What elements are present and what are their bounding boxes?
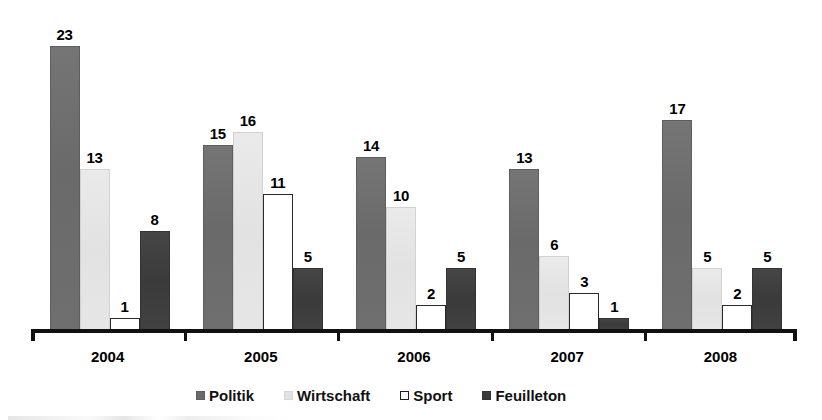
x-axis-label-2005: 2005 bbox=[201, 348, 321, 365]
x-axis-right-cap bbox=[793, 333, 797, 341]
bar-rect[interactable] bbox=[386, 207, 416, 331]
bar-value-label: 23 bbox=[50, 26, 80, 43]
bar-politik-2008[interactable]: 17 bbox=[662, 10, 692, 330]
legend-label: Politik bbox=[209, 387, 254, 404]
bar-feuilleton-2004[interactable]: 8 bbox=[140, 10, 170, 330]
bar-rect[interactable] bbox=[416, 305, 446, 330]
bar-politik-2006[interactable]: 14 bbox=[356, 10, 386, 330]
bar-row: 17525 bbox=[662, 10, 782, 330]
bar-sport-2004[interactable]: 1 bbox=[110, 10, 140, 330]
bar-wirtschaft-2008[interactable]: 5 bbox=[692, 10, 722, 330]
bar-value-label: 2 bbox=[722, 285, 752, 302]
bar-wirtschaft-2006[interactable]: 10 bbox=[386, 10, 416, 330]
bar-value-label: 6 bbox=[539, 236, 569, 253]
bar-value-label: 10 bbox=[386, 187, 416, 204]
legend-label: Sport bbox=[413, 387, 452, 404]
x-axis-tick bbox=[184, 333, 187, 341]
bar-value-label: 13 bbox=[509, 149, 539, 166]
bar-rect[interactable] bbox=[752, 268, 782, 330]
bar-rect[interactable] bbox=[662, 120, 692, 330]
bar-row: 231318 bbox=[50, 10, 170, 330]
legend-swatch-icon bbox=[196, 391, 205, 400]
plot-area: 23131815161151410251363117525 bbox=[31, 10, 797, 330]
bar-sport-2007[interactable]: 3 bbox=[569, 10, 599, 330]
x-axis-label-2008: 2008 bbox=[660, 348, 780, 365]
bar-rect[interactable] bbox=[509, 169, 539, 330]
bar-wirtschaft-2005[interactable]: 16 bbox=[233, 10, 263, 330]
bar-rect[interactable] bbox=[203, 145, 233, 330]
legend-label: Feuilleton bbox=[495, 387, 566, 404]
legend-label: Wirtschaft bbox=[297, 387, 370, 404]
bar-value-label: 13 bbox=[80, 149, 110, 166]
bar-row: 13631 bbox=[509, 10, 629, 330]
x-axis-tick bbox=[337, 333, 340, 341]
bar-politik-2004[interactable]: 23 bbox=[50, 10, 80, 330]
bar-politik-2005[interactable]: 15 bbox=[203, 10, 233, 330]
bar-rect[interactable] bbox=[293, 268, 323, 330]
bar-value-label: 8 bbox=[140, 211, 170, 228]
bar-chart: 23131815161151410251363117525 2004200520… bbox=[0, 0, 822, 420]
bar-rect[interactable] bbox=[50, 46, 80, 330]
bar-value-label: 16 bbox=[233, 112, 263, 129]
chart-legend: PolitikWirtschaftSportFeuilleton bbox=[196, 384, 566, 406]
bar-rect[interactable] bbox=[569, 293, 599, 330]
bar-rect[interactable] bbox=[692, 268, 722, 330]
x-axis-tick bbox=[644, 333, 647, 341]
legend-item-wirtschaft[interactable]: Wirtschaft bbox=[284, 387, 370, 404]
x-axis-label-2004: 2004 bbox=[48, 348, 168, 365]
bar-feuilleton-2006[interactable]: 5 bbox=[446, 10, 476, 330]
bar-value-label: 11 bbox=[263, 174, 293, 191]
bar-rect[interactable] bbox=[722, 305, 752, 330]
bar-value-label: 2 bbox=[416, 285, 446, 302]
legend-item-sport[interactable]: Sport bbox=[400, 387, 452, 404]
bar-sport-2005[interactable]: 11 bbox=[263, 10, 293, 330]
legend-swatch-icon bbox=[482, 391, 491, 400]
bar-sport-2008[interactable]: 2 bbox=[722, 10, 752, 330]
bar-rect[interactable] bbox=[356, 157, 386, 330]
page-edge-artifact bbox=[8, 416, 298, 420]
bar-value-label: 14 bbox=[356, 137, 386, 154]
bar-row: 141025 bbox=[356, 10, 476, 330]
legend-swatch-icon bbox=[400, 391, 409, 400]
bar-value-label: 15 bbox=[203, 125, 233, 142]
x-axis-line bbox=[31, 329, 797, 333]
x-axis-label-2006: 2006 bbox=[354, 348, 474, 365]
bar-value-label: 17 bbox=[662, 100, 692, 117]
bar-row: 1516115 bbox=[203, 10, 323, 330]
bar-value-label: 5 bbox=[752, 248, 782, 265]
bar-rect[interactable] bbox=[80, 169, 110, 330]
bar-feuilleton-2007[interactable]: 1 bbox=[599, 10, 629, 330]
bar-rect[interactable] bbox=[233, 132, 263, 330]
bar-value-label: 5 bbox=[692, 248, 722, 265]
bar-value-label: 5 bbox=[446, 248, 476, 265]
legend-item-feuilleton[interactable]: Feuilleton bbox=[482, 387, 566, 404]
bar-wirtschaft-2004[interactable]: 13 bbox=[80, 10, 110, 330]
bar-value-label: 5 bbox=[293, 248, 323, 265]
bar-feuilleton-2005[interactable]: 5 bbox=[293, 10, 323, 330]
bar-rect[interactable] bbox=[263, 194, 293, 330]
bar-value-label: 3 bbox=[569, 273, 599, 290]
bar-rect[interactable] bbox=[446, 268, 476, 330]
bar-wirtschaft-2007[interactable]: 6 bbox=[539, 10, 569, 330]
bar-value-label: 1 bbox=[599, 298, 629, 315]
bar-rect[interactable] bbox=[539, 256, 569, 330]
bar-feuilleton-2008[interactable]: 5 bbox=[752, 10, 782, 330]
x-axis-label-2007: 2007 bbox=[507, 348, 627, 365]
bar-sport-2006[interactable]: 2 bbox=[416, 10, 446, 330]
x-axis-tick bbox=[491, 333, 494, 341]
legend-item-politik[interactable]: Politik bbox=[196, 387, 254, 404]
bar-rect[interactable] bbox=[140, 231, 170, 330]
bar-value-label: 1 bbox=[110, 298, 140, 315]
bar-politik-2007[interactable]: 13 bbox=[509, 10, 539, 330]
x-axis-left-cap bbox=[31, 333, 35, 341]
legend-swatch-icon bbox=[284, 391, 293, 400]
